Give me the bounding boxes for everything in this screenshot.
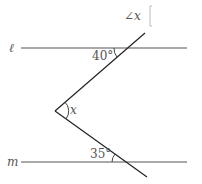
upper-ray [55,33,145,111]
angle-x-label: x [70,103,77,117]
line-l-label: ℓ [9,41,14,55]
angle-40-arc [114,48,117,57]
line-m-label: m [7,155,18,169]
angle-40-label: 40° [92,49,113,63]
question-angle-label: ∠x [124,9,141,23]
answer-bracket[interactable] [150,6,152,26]
angle-35-arc [112,154,115,162]
angle-x-arc [65,102,69,119]
angle-35-label: 35° [90,147,111,161]
lower-ray [55,111,147,177]
parallel-lines-diagram: ∠x ℓ m 40° x 35° [0,0,202,184]
